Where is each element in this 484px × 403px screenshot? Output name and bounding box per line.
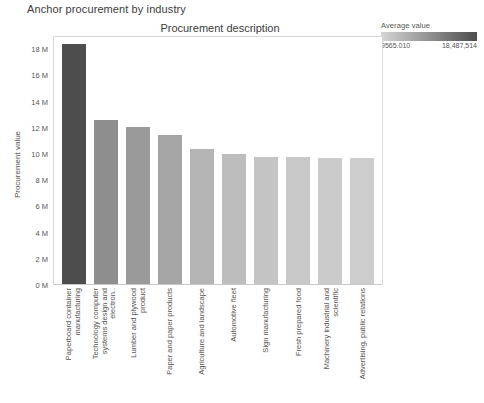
legend-max-label: 18,487,514 xyxy=(442,42,477,49)
x-axis-tick-label: Paperboard container manufacturing xyxy=(65,288,82,380)
color-legend: Average value 9565.010 18,487,514 xyxy=(381,21,481,49)
y-axis-tick: 16 M xyxy=(31,71,48,80)
x-axis: Paperboard container manufacturingTechno… xyxy=(53,288,383,384)
plot-area xyxy=(53,36,383,285)
x-axis-tick-label: Paper and paper products xyxy=(165,288,174,380)
x-axis-tick-label: Lumber and plywood product xyxy=(129,288,146,380)
bar[interactable] xyxy=(158,135,181,285)
x-axis-tick-label: Sign manufacturing xyxy=(262,288,271,380)
y-axis-tick: 8 M xyxy=(35,176,48,185)
y-axis-tick: 14 M xyxy=(31,97,48,106)
bar[interactable] xyxy=(286,157,309,284)
bar-slot xyxy=(346,37,378,284)
y-axis-title: Procurement value xyxy=(13,100,22,230)
legend-range-labels: 9565.010 18,487,514 xyxy=(381,42,477,49)
x-slot: Advertising, public relations xyxy=(347,288,379,384)
x-slot: Lumber and plywood product xyxy=(121,288,153,384)
page-title: Anchor procurement by industry xyxy=(27,3,186,15)
chart-title: Procurement description xyxy=(55,22,385,34)
x-slot: Technology computer systems design and e… xyxy=(89,288,121,384)
bar[interactable] xyxy=(190,149,213,284)
y-axis-tick: 12 M xyxy=(31,123,48,132)
y-axis-tick: 10 M xyxy=(31,149,48,158)
bar-slot xyxy=(314,37,346,284)
x-slot: Paperboard container manufacturing xyxy=(57,288,89,384)
x-axis-tick-label: Automotive fleet xyxy=(230,288,239,380)
bar[interactable] xyxy=(222,154,245,284)
y-axis-tick: 6 M xyxy=(35,202,48,211)
x-axis-tick-label: Agriculture and landscape xyxy=(198,288,207,380)
x-slot: Sign manufacturing xyxy=(250,288,282,384)
y-axis-tick: 18 M xyxy=(31,45,48,54)
bar[interactable] xyxy=(126,127,149,284)
legend-title: Average value xyxy=(381,21,481,30)
legend-gradient-bar xyxy=(381,32,477,41)
bar-slot xyxy=(250,37,282,284)
x-axis-tick-label: Machinery industrial and scientific xyxy=(322,288,339,380)
y-axis-tick: 2 M xyxy=(35,254,48,263)
bar[interactable] xyxy=(62,44,85,284)
x-axis-tick-label: Fresh prepared food xyxy=(294,288,303,380)
x-slot: Fresh prepared food xyxy=(282,288,314,384)
bar[interactable] xyxy=(254,157,277,284)
bar-slot xyxy=(122,37,154,284)
x-slot: Automotive fleet xyxy=(218,288,250,384)
chart-container: Procurement description Average value 95… xyxy=(0,18,484,386)
bar-slot xyxy=(90,37,122,284)
bar-slot xyxy=(186,37,218,284)
y-axis-tick: 4 M xyxy=(35,228,48,237)
x-axis-tick-label: Advertising, public relations xyxy=(359,288,368,380)
bar-slot xyxy=(58,37,90,284)
legend-min-label: 9565.010 xyxy=(381,42,410,49)
y-axis-tick: 0 M xyxy=(35,281,48,290)
bar-slot xyxy=(154,37,186,284)
bar[interactable] xyxy=(350,158,373,284)
bar-slot xyxy=(218,37,250,284)
x-slot: Paper and paper products xyxy=(154,288,186,384)
y-axis: Procurement value 18 M16 M14 M12 M10 M8 … xyxy=(0,36,53,285)
x-axis-tick-label: Technology computer systems design and e… xyxy=(93,288,119,380)
bar-series xyxy=(54,37,382,284)
bar[interactable] xyxy=(94,120,117,284)
x-slot: Agriculture and landscape xyxy=(186,288,218,384)
x-slot: Machinery industrial and scientific xyxy=(315,288,347,384)
bar[interactable] xyxy=(318,158,341,284)
bar-slot xyxy=(282,37,314,284)
